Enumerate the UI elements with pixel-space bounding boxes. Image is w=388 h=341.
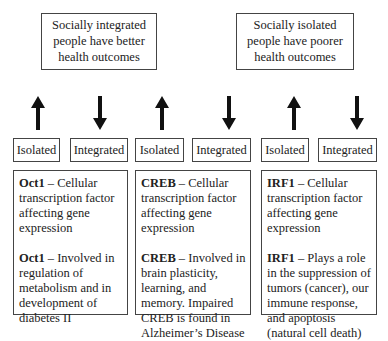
- oct1-role: Oct1 – Cellular transcription factor aff…: [19, 176, 123, 236]
- gene-name: Oct1: [19, 176, 45, 190]
- integrated-outcome-box: Socially integrated people have better h…: [41, 13, 157, 70]
- label-text: Isolated: [17, 143, 57, 157]
- down-arrow-icon: [222, 96, 236, 130]
- label-integrated: Integrated: [70, 138, 128, 162]
- gene-name: IRF1: [267, 251, 295, 265]
- label-text: Isolated: [265, 143, 305, 157]
- label-isolated: Isolated: [261, 138, 309, 162]
- oct1-description-box: Oct1 – Cellular transcription factor aff…: [13, 170, 128, 315]
- up-arrow-icon: [287, 96, 301, 130]
- isolated-outcome-text: Socially isolated people have poorer hea…: [247, 18, 343, 64]
- gene-name: CREB: [141, 251, 176, 265]
- up-arrow-icon: [31, 96, 45, 130]
- gene-name: IRF1: [267, 176, 295, 190]
- label-text: Isolated: [140, 143, 180, 157]
- integrated-outcome-text: Socially integrated people have better h…: [52, 18, 146, 64]
- oct1-function: Oct1 – Involved in regulation of metabol…: [19, 251, 123, 326]
- label-text: Integrated: [322, 143, 373, 157]
- gene-name: Oct1: [19, 251, 45, 265]
- irf1-description-box: IRF1 – Cellular transcription factor aff…: [261, 170, 377, 315]
- label-integrated: Integrated: [192, 138, 251, 162]
- label-isolated: Isolated: [135, 138, 184, 162]
- creb-role: CREB – Cellular transcription factor aff…: [141, 176, 246, 236]
- label-isolated: Isolated: [13, 138, 60, 162]
- label-text: Integrated: [74, 143, 125, 157]
- irf1-role: IRF1 – Cellular transcription factor aff…: [267, 176, 372, 236]
- down-arrow-icon: [350, 96, 364, 130]
- up-arrow-icon: [155, 96, 169, 130]
- label-integrated: Integrated: [318, 138, 377, 162]
- gene-name: CREB: [141, 176, 176, 190]
- creb-function: CREB – Involved in brain plasticity, lea…: [141, 251, 246, 341]
- irf1-function: IRF1 – Plays a role in the suppression o…: [267, 251, 372, 341]
- isolated-outcome-box: Socially isolated people have poorer hea…: [236, 13, 354, 70]
- creb-description-box: CREB – Cellular transcription factor aff…: [135, 170, 251, 315]
- down-arrow-icon: [93, 96, 107, 130]
- label-text: Integrated: [196, 143, 247, 157]
